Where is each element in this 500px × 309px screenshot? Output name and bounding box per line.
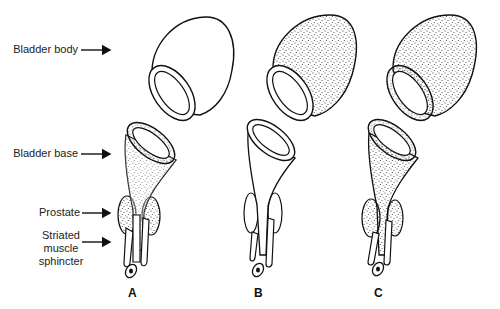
label-arrows: [81, 50, 110, 242]
bladder-base-c: [361, 112, 422, 278]
panel-letter-b: B: [254, 286, 263, 300]
label-bladder-base: Bladder base: [10, 147, 78, 160]
bladder-base-a: [118, 115, 182, 280]
label-striated-line1: Striated: [36, 229, 86, 242]
bladder-base-b: [240, 112, 301, 279]
label-striated-muscle-sphincter: Striated muscle sphincter: [36, 229, 86, 268]
panel-letter-a: A: [128, 286, 137, 300]
label-striated-line2: muscle: [36, 242, 86, 255]
panel-letter-c: C: [374, 286, 383, 300]
bladder-body-a: [139, 17, 233, 129]
label-bladder-body: Bladder body: [10, 43, 78, 56]
label-striated-line3: sphincter: [36, 255, 86, 268]
bladder-body-c: [377, 15, 476, 129]
bladder-body-b: [257, 15, 356, 129]
label-prostate: Prostate: [10, 206, 80, 219]
